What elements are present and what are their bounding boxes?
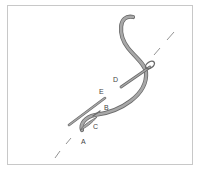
thread-loop xyxy=(82,17,147,130)
stitch-diagram xyxy=(0,0,197,173)
label-d: D xyxy=(113,76,118,83)
guide-line xyxy=(55,32,174,158)
label-c: C xyxy=(93,123,98,130)
label-a: A xyxy=(81,138,86,145)
needle-d xyxy=(121,60,156,87)
label-b: B xyxy=(104,104,109,111)
label-e: E xyxy=(99,88,104,95)
